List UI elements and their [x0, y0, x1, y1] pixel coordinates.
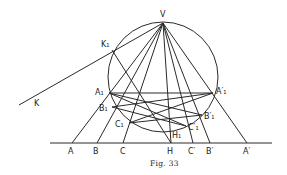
label-B1p: B′₁ [204, 112, 215, 121]
segment-K1-H [112, 50, 171, 143]
label-B1: B₁ [99, 104, 108, 113]
label-K1: K₁ [101, 40, 109, 49]
label-C: C [120, 147, 126, 156]
segment-A1p-B1 [112, 93, 213, 107]
segment-V-C [123, 23, 163, 143]
label-C1: C₁ [115, 120, 124, 129]
label-C1p: C′₁ [188, 123, 199, 132]
label-A1p: A′₁ [216, 87, 227, 96]
label-H1: H₁ [172, 131, 181, 140]
construction-lines [19, 23, 247, 143]
label-Ap: A′ [243, 147, 250, 156]
figure-caption: Fig. 33 [150, 159, 179, 168]
label-V: V [160, 10, 166, 19]
figure-33: VKK₁A₁A′₁B₁B′₁C₁C′₁H₁ABCHC′B′A′ Fig. 33 [0, 0, 287, 175]
label-B: B [93, 147, 99, 156]
label-K: K [34, 99, 40, 108]
label-H: H [167, 147, 173, 156]
label-Cp: C′ [188, 147, 196, 156]
label-A: A [68, 147, 74, 156]
label-Bp: B′ [206, 147, 213, 156]
label-A1: A₁ [95, 88, 104, 97]
